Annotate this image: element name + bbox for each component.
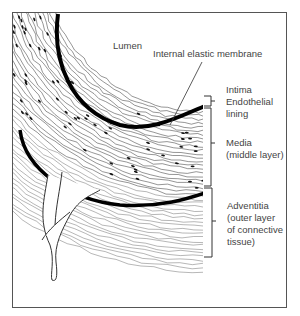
cell-nucleus bbox=[181, 132, 185, 134]
fiber-strand bbox=[0, 0, 205, 197]
cell-nucleus bbox=[131, 165, 135, 168]
adventitia-label: Adventitia bbox=[227, 200, 269, 212]
internal-elastic-membrane-label: Internal elastic membrane bbox=[153, 48, 262, 60]
fiber-strand bbox=[1, 0, 205, 155]
cell-nucleus bbox=[2, 62, 6, 66]
adventitia-sublabel-3: tissue) bbox=[227, 236, 255, 248]
media-label: Media bbox=[226, 137, 252, 149]
cell-nucleus bbox=[85, 114, 89, 118]
cell-nucleus bbox=[161, 154, 165, 157]
vasa-vasorum bbox=[42, 172, 100, 280]
layer-brackets bbox=[204, 96, 216, 257]
adventitia-sublabel-2: of connective bbox=[227, 224, 283, 236]
fiber-strand bbox=[6, 0, 205, 151]
fiber-strand bbox=[0, 0, 205, 250]
fiber-strand bbox=[0, 0, 205, 177]
fiber-strand bbox=[0, 0, 205, 203]
endothelial-label: Endothelial bbox=[226, 96, 273, 108]
fiber-strand bbox=[0, 0, 205, 230]
media-sublabel: (middle layer) bbox=[226, 149, 284, 161]
internal-elastic-membrane-line bbox=[57, 14, 205, 127]
cell-nucleus bbox=[201, 180, 205, 182]
tissue-layers bbox=[0, 0, 205, 280]
fiber-strand bbox=[0, 0, 205, 207]
cell-nucleus bbox=[109, 173, 113, 176]
fiber-strands bbox=[0, 0, 205, 273]
cell-nucleus bbox=[20, 111, 24, 115]
intima-bracket bbox=[204, 96, 215, 106]
cell-nucleus bbox=[195, 187, 199, 189]
cell-nucleus bbox=[175, 162, 179, 164]
cell-nucleus bbox=[146, 141, 150, 144]
adventitia-bracket bbox=[204, 188, 216, 257]
cell-nucleus bbox=[7, 15, 10, 19]
intima-label: Intima bbox=[226, 84, 252, 96]
cell-nucleus bbox=[33, 17, 36, 21]
lumen-label: Lumen bbox=[113, 40, 142, 52]
cell-nucleus bbox=[179, 146, 183, 148]
cell-nucleus bbox=[9, 2, 12, 6]
adventitia-sublabel-1: (outer layer bbox=[227, 212, 275, 224]
media-bracket bbox=[204, 108, 215, 186]
cell-nucleus bbox=[191, 165, 195, 167]
endothelial-lining-label: lining bbox=[226, 108, 248, 120]
fiber-strand bbox=[0, 0, 205, 158]
cell-nucleus bbox=[29, 116, 33, 120]
cell-nucleus bbox=[188, 138, 192, 140]
cell-nucleus bbox=[134, 170, 138, 173]
